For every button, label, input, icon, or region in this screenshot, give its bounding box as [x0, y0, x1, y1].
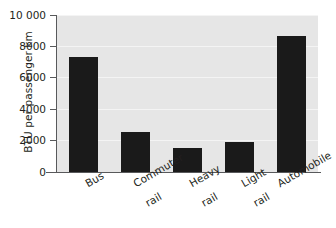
y-tick-0	[50, 172, 56, 173]
x-label-heavy-rail-line1: Heavy	[187, 162, 222, 189]
y-tick-label-6000: 6000	[19, 71, 46, 83]
bar-bus	[69, 57, 98, 172]
y-tick-2000	[50, 140, 56, 141]
y-tick-8000	[50, 46, 56, 47]
y-tick-10000	[50, 15, 56, 16]
y-tick-label-2000: 2000	[19, 134, 46, 146]
y-tick-4000	[50, 109, 56, 110]
gridline-10000	[57, 15, 318, 16]
y-tick-label-8000: 8000	[19, 40, 46, 52]
y-tick-label-4000: 4000	[19, 103, 46, 115]
y-tick-label-0: 0	[39, 166, 46, 178]
y-axis-title: BTU per passenger km	[22, 12, 34, 172]
y-tick-6000	[50, 77, 56, 78]
y-axis-line	[56, 15, 57, 173]
y-tick-label-10000: 10 000	[9, 9, 46, 21]
plot-area	[57, 15, 318, 172]
